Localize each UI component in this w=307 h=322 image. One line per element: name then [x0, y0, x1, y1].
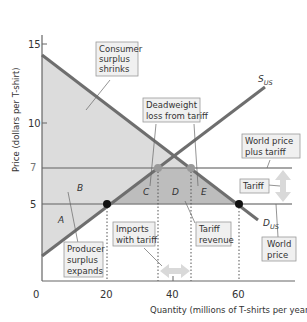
point-q45-p7	[187, 164, 195, 172]
y-tick-label-5: 5	[30, 199, 36, 210]
callout-producer-surplus: Producer surplus expands	[64, 242, 105, 277]
svg-text:Deadweight: Deadweight	[146, 100, 198, 110]
svg-text:World: World	[267, 239, 291, 249]
leader-world	[276, 204, 278, 237]
svg-text:with tariff: with tariff	[116, 235, 158, 245]
x-tick-label-40: 40	[166, 289, 179, 300]
x-tick-label-20: 20	[100, 289, 113, 300]
tariff-chart: 15 10 7 5 0 20 40 60 Quantity (millions …	[0, 0, 307, 322]
leader-imports	[144, 248, 162, 266]
svg-text:price: price	[267, 250, 288, 260]
callout-world-price: World price	[262, 237, 296, 261]
callout-tariff: Tariff	[240, 179, 269, 193]
x-tick-label-60: 60	[232, 289, 245, 300]
region-a-label: A	[57, 215, 64, 225]
svg-text:loss from tariff: loss from tariff	[146, 111, 209, 121]
callout-imports-with-tariff: Imports with tariff	[113, 222, 158, 246]
leader-tariff	[268, 185, 280, 186]
tariff-revenue-region-d	[158, 168, 190, 204]
svg-text:Tariff: Tariff	[242, 181, 265, 191]
y-tick-label-15: 15	[28, 39, 41, 50]
point-q60-p5	[235, 200, 243, 208]
supply-label: SUS	[258, 74, 273, 87]
region-c-label: C	[143, 187, 150, 197]
svg-text:surplus: surplus	[67, 255, 98, 265]
region-b-label: B	[77, 183, 83, 193]
point-q20-p5	[103, 200, 111, 208]
svg-text:Consumer: Consumer	[99, 44, 143, 54]
svg-text:expands: expands	[67, 266, 103, 276]
svg-text:surplus: surplus	[99, 54, 130, 64]
svg-text:Tariff: Tariff	[198, 224, 221, 234]
region-e-label: E	[201, 187, 207, 197]
svg-text:Imports: Imports	[116, 224, 149, 234]
svg-text:revenue: revenue	[199, 235, 234, 245]
callout-deadweight-loss: Deadweight loss from tariff	[143, 98, 209, 122]
point-q35-p7	[154, 164, 162, 172]
x-tick-label-0: 0	[33, 289, 39, 300]
svg-text:Producer: Producer	[67, 244, 105, 254]
region-d-label: D	[172, 187, 179, 197]
y-tick-label-7: 7	[30, 162, 36, 173]
callout-tariff-revenue: Tariff revenue	[196, 222, 234, 246]
svg-text:plus tariff: plus tariff	[245, 147, 287, 157]
svg-text:World price: World price	[245, 136, 293, 146]
imports-arrow	[160, 264, 190, 278]
leader-world-plus	[267, 160, 270, 168]
y-axis-title: Price (dollars per T-shirt)	[11, 67, 21, 172]
svg-text:shrinks: shrinks	[99, 64, 130, 74]
callout-world-price-plus-tariff: World price plus tariff	[242, 134, 300, 158]
callout-consumer-surplus: Consumer surplus shrinks	[96, 42, 143, 76]
x-axis-title: Quantity (millions of T-shirts per year)	[150, 305, 307, 315]
demand-label: DUS	[263, 218, 279, 231]
y-tick-label-10: 10	[28, 118, 41, 129]
